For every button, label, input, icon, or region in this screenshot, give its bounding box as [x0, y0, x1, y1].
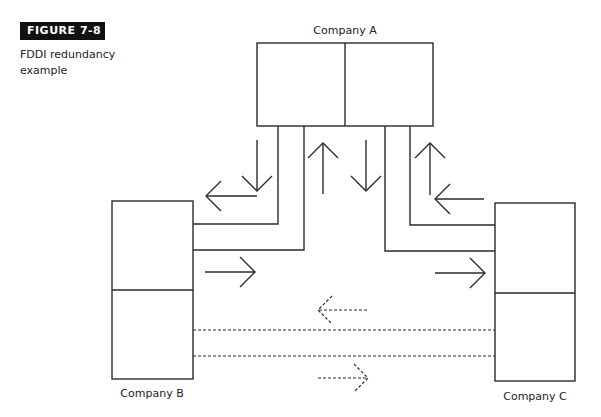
dashed-arrow-right-icon — [318, 364, 368, 392]
arrow-down-icon — [351, 140, 381, 191]
arrow-right-icon — [435, 258, 485, 288]
arrow-left-icon — [206, 181, 257, 211]
company-c-label: Company C — [503, 390, 567, 403]
company-b-label: Company B — [120, 387, 183, 400]
arrow-down-icon — [242, 140, 272, 191]
company-a-label: Company A — [313, 24, 377, 37]
arrow-up-icon — [415, 143, 445, 195]
arrow-left-icon — [435, 184, 484, 214]
arrow-right-icon — [205, 257, 255, 287]
dashed-arrow-left-icon — [318, 296, 367, 324]
company-b-node — [112, 201, 193, 379]
company-a-node — [257, 43, 433, 126]
link-b-c-dashed — [193, 330, 495, 356]
company-c-node — [495, 203, 575, 381]
link-a-b — [193, 126, 304, 250]
network-diagram: Company A Company B Company C — [0, 0, 601, 417]
link-a-c — [385, 126, 495, 251]
arrow-up-icon — [308, 143, 338, 194]
